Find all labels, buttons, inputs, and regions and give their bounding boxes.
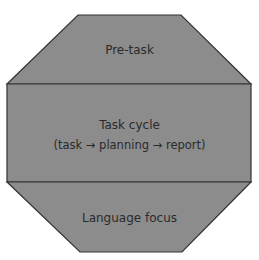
task-cycle-section: [7, 84, 251, 182]
task-cycle-sublabel: (task → planning → report): [0, 137, 259, 153]
pre-task-label: Pre-task: [0, 42, 259, 58]
language-focus-label: Language focus: [0, 210, 259, 226]
task-cycle-label: Task cycle: [0, 117, 259, 133]
